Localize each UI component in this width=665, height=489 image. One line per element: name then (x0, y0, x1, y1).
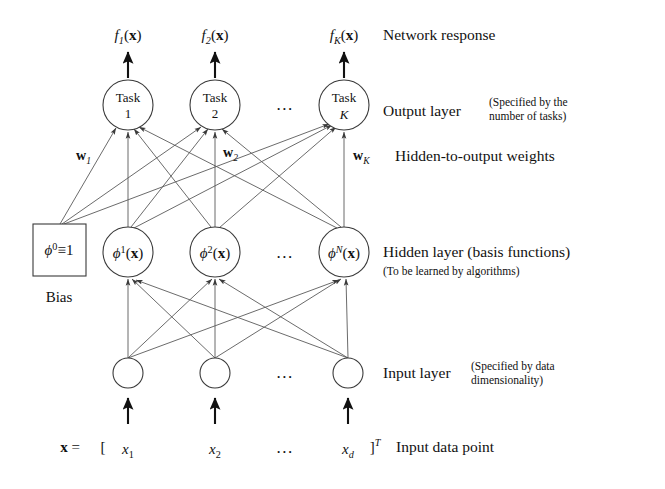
input-vector-group: x = [ x1 x2 ... xd ]T Input data point (60, 437, 495, 460)
input-layer-group: ... Input layer (Specified by data dimen… (113, 358, 555, 388)
neural-network-diagram: f1(x) f2(x) fK(x) Network response Task … (0, 0, 665, 489)
weights-group: w1 w2 wK Hidden-to-output weights (76, 145, 555, 166)
output-node-2-line2: 2 (212, 106, 219, 121)
output-layer-group: Task 1 Task 2 ... Task K Output layer (S… (103, 80, 568, 130)
input-component-1: x1 (121, 441, 134, 460)
hidden-layer-label: Hidden layer (basis functions) (383, 243, 570, 261)
weight-label-2: w2 (223, 145, 238, 163)
output-node-task-k[interactable] (319, 80, 369, 130)
input-vector-symbol: x = (60, 439, 80, 455)
output-node-task-1[interactable] (103, 80, 153, 130)
edges-input-to-hidden (128, 279, 348, 358)
output-node-task-2[interactable] (190, 80, 240, 130)
output-expression-k: fK(x) (330, 27, 358, 46)
weight-label-k: wK (353, 148, 370, 166)
output-node-k-line1: Task (332, 90, 357, 105)
input-component-d: xd (341, 441, 355, 460)
diagram-canvas: f1(x) f2(x) fK(x) Network response Task … (0, 0, 665, 489)
hidden-node-2-label: ϕ2(x) (200, 244, 230, 262)
input-vector-caption: Input data point (396, 438, 495, 455)
input-layer-ellipsis: ... (276, 363, 293, 382)
bias-expression: ϕ0≡1 (45, 241, 74, 258)
edges-hidden-to-output (60, 124, 344, 228)
input-vector-close-bracket: ]T (370, 437, 382, 455)
input-data-arrows (128, 398, 348, 424)
input-vector-open-bracket: [ (101, 439, 106, 455)
hidden-node-n-label: ϕN(x) (328, 244, 360, 262)
input-node-2[interactable] (200, 358, 230, 388)
network-response-row: f1(x) f2(x) fK(x) Network response (115, 26, 496, 46)
input-component-2: x2 (208, 441, 221, 460)
output-layer-ellipsis: ... (276, 95, 293, 114)
output-node-2-line1: Task (203, 90, 228, 105)
network-response-label: Network response (383, 26, 495, 43)
output-expression-2: f2(x) (202, 27, 229, 46)
input-vector-ellipsis: ... (276, 438, 293, 457)
output-node-1-line2: 1 (125, 106, 132, 121)
output-layer-note-line1: (Specified by the (489, 96, 568, 109)
output-layer-note-line2: number of tasks) (489, 110, 566, 123)
weights-row-label: Hidden-to-output weights (395, 147, 555, 164)
hidden-node-1-label: ϕ1(x) (113, 244, 143, 262)
bias-caption: Bias (46, 289, 73, 305)
output-expression-1: f1(x) (115, 27, 142, 46)
hidden-layer-note: (To be learned by algorithms) (383, 265, 520, 278)
output-node-1-line1: Task (116, 90, 141, 105)
input-layer-note-line2: dimensionality) (471, 374, 543, 387)
input-node-1[interactable] (113, 358, 143, 388)
input-layer-label: Input layer (383, 364, 451, 381)
input-layer-note-line1: (Specified by data (471, 360, 555, 373)
weight-label-1: w1 (76, 148, 91, 166)
output-node-k-line2: K (339, 107, 350, 122)
input-node-d[interactable] (333, 358, 363, 388)
output-response-arrows (128, 52, 344, 78)
output-layer-label: Output layer (383, 102, 462, 119)
hidden-layer-group: ϕ0≡1 Bias ϕ1(x) ϕ2(x) ... ϕN(x) Hidden l… (33, 224, 570, 305)
hidden-layer-ellipsis: ... (276, 243, 293, 262)
